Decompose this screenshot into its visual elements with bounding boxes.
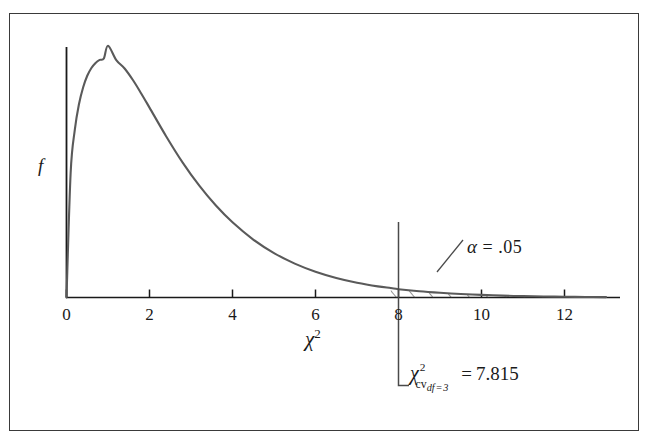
chi-square-density-curve (67, 46, 607, 298)
alpha-equals-sign: = (482, 237, 493, 257)
chi-square-chart (0, 0, 652, 447)
x-tick-label-2: 2 (145, 306, 154, 323)
cv-subscript-cv: cv (416, 378, 427, 391)
alpha-leader-line (437, 240, 463, 272)
x-axis-label-exponent: 2 (314, 326, 321, 341)
alpha-value: .05 (498, 237, 522, 257)
x-tick-label-4: 4 (228, 306, 237, 323)
x-tick-label-0: 0 (62, 306, 71, 323)
x-tick-label-12: 12 (556, 306, 573, 323)
y-axis-label: f (38, 156, 43, 175)
x-axis-label: χ2 (305, 327, 321, 350)
figure-root: 024681012 f χ2 α = .05 χ2cvdf = 3=7.815 (0, 0, 652, 447)
cv-value: 7.815 (476, 363, 519, 384)
cv-exponent: 2 (420, 361, 426, 373)
cv-subscript-df: df = 3 (427, 382, 449, 393)
x-axis-label-base: χ (305, 327, 314, 351)
x-tick-label-10: 10 (473, 306, 490, 323)
x-tick-label-8: 8 (394, 306, 403, 323)
x-tick-label-6: 6 (311, 306, 320, 323)
alpha-annotation: α = .05 (467, 237, 522, 256)
cv-equals-sign: = (461, 363, 472, 384)
critical-value-leader-line (399, 385, 410, 386)
critical-value-annotation: χ2cvdf = 3=7.815 (410, 363, 519, 388)
alpha-symbol: α (467, 236, 477, 257)
